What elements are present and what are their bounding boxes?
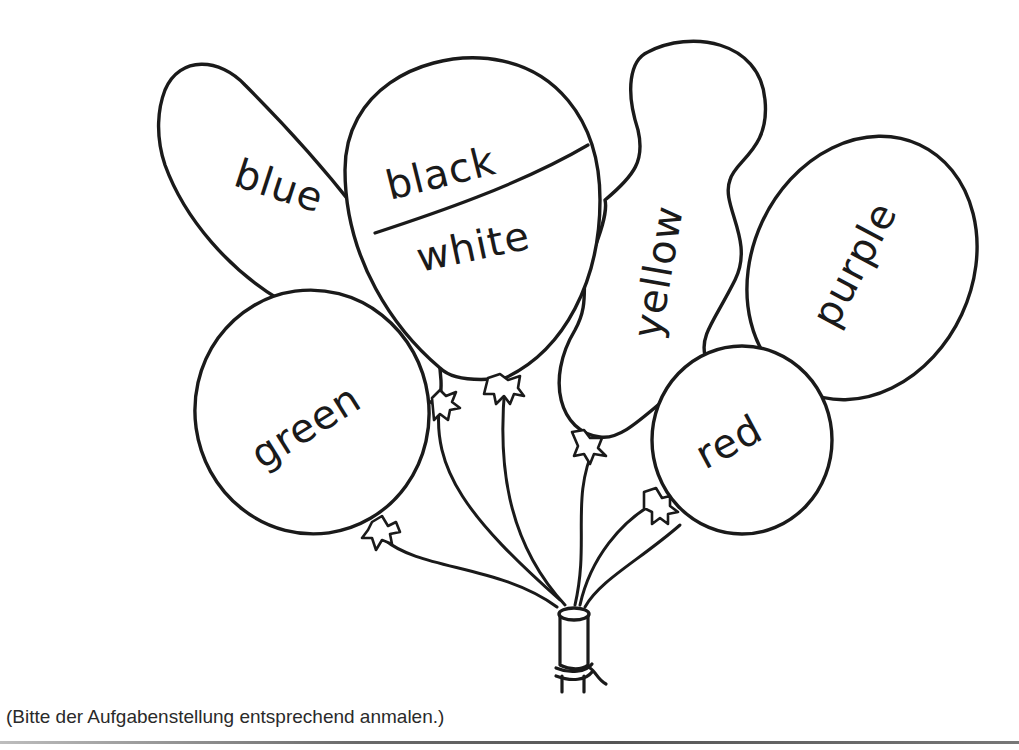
- balloon-illustration: purple yellow blue black white green red: [0, 0, 1019, 700]
- string-holder: [556, 608, 606, 692]
- instruction-caption: (Bitte der Aufgabenstellung entsprechend…: [6, 706, 444, 728]
- knot-blue-icon: [432, 390, 460, 420]
- balloon-coloring-worksheet: purple yellow blue black white green red: [0, 0, 1019, 750]
- bottom-divider: [0, 741, 1019, 744]
- balloon-red[interactable]: red: [652, 346, 832, 534]
